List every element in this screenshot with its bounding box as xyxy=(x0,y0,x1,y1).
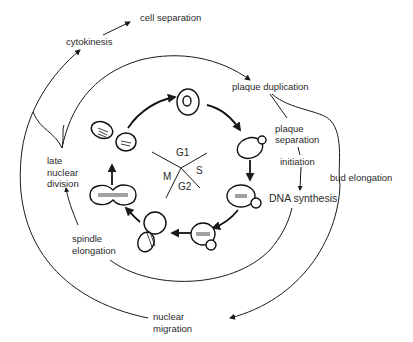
outer-cycle-arc xyxy=(20,50,148,318)
label-late-3: division xyxy=(47,178,79,189)
label-nuclear-migration-1: nuclear xyxy=(153,311,184,322)
cell-cycle-diagram: cell separation cytokinesis plaque dupli… xyxy=(0,0,413,342)
phase-m: M xyxy=(163,171,171,182)
label-nuclear-migration-2: migration xyxy=(153,323,192,334)
label-initiation: initiation xyxy=(280,156,315,167)
label-late-2: nuclear xyxy=(47,167,78,178)
label-spindle-1: spindle xyxy=(72,233,102,244)
late-division-cusp xyxy=(33,112,64,148)
label-late-1: late xyxy=(47,155,62,166)
label-bud-elongation: bud elongation xyxy=(330,172,392,183)
spindle-to-division-arrow xyxy=(66,188,78,225)
init-to-dna-arrow xyxy=(300,167,301,190)
label-dna-synthesis: DNA synthesis xyxy=(269,193,337,204)
phase-g2: G2 xyxy=(178,181,191,192)
phase-s: S xyxy=(196,165,203,176)
label-cell-separation: cell separation xyxy=(140,12,201,23)
label-plaque-duplication: plaque duplication xyxy=(232,81,309,92)
label-plaque-separation-2: separation xyxy=(275,134,319,145)
phase-g1: G1 xyxy=(176,147,189,158)
label-plaque-separation-1: plaque xyxy=(275,123,304,134)
middle-arc-top xyxy=(62,56,250,148)
init-tick xyxy=(298,147,300,155)
cytokinesis-arrow xyxy=(103,22,130,35)
label-spindle-2: elongation xyxy=(72,245,116,256)
label-cytokinesis: cytokinesis xyxy=(66,36,112,47)
plaque-sep-line xyxy=(270,94,287,118)
